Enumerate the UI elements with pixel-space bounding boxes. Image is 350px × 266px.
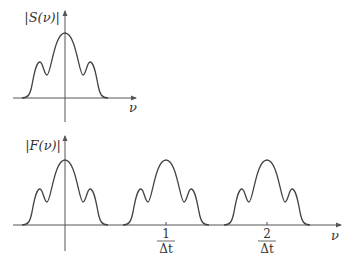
- tick-label-1-den: Δt: [159, 242, 173, 256]
- tick-label-1-num: 1: [162, 227, 170, 241]
- spectrum-diagram: |S(ν)| ν 1 Δt 2 Δt |F(ν)| ν: [0, 0, 350, 266]
- replica-1: [123, 160, 209, 225]
- bottom-y-label: |F(ν)|: [25, 138, 61, 153]
- bottom-x-label: ν: [331, 228, 339, 243]
- tick-label-2: 2 Δt: [258, 227, 276, 256]
- tick-label-1: 1 Δt: [157, 227, 175, 256]
- top-y-label: |S(ν)|: [24, 10, 60, 25]
- tick-label-2-den: Δt: [260, 242, 274, 256]
- top-plot: |S(ν)| ν: [13, 10, 137, 122]
- bottom-plot: 1 Δt 2 Δt |F(ν)| ν: [13, 136, 341, 256]
- top-x-label: ν: [129, 100, 137, 115]
- replica-2: [224, 160, 310, 225]
- tick-label-2-num: 2: [263, 227, 271, 241]
